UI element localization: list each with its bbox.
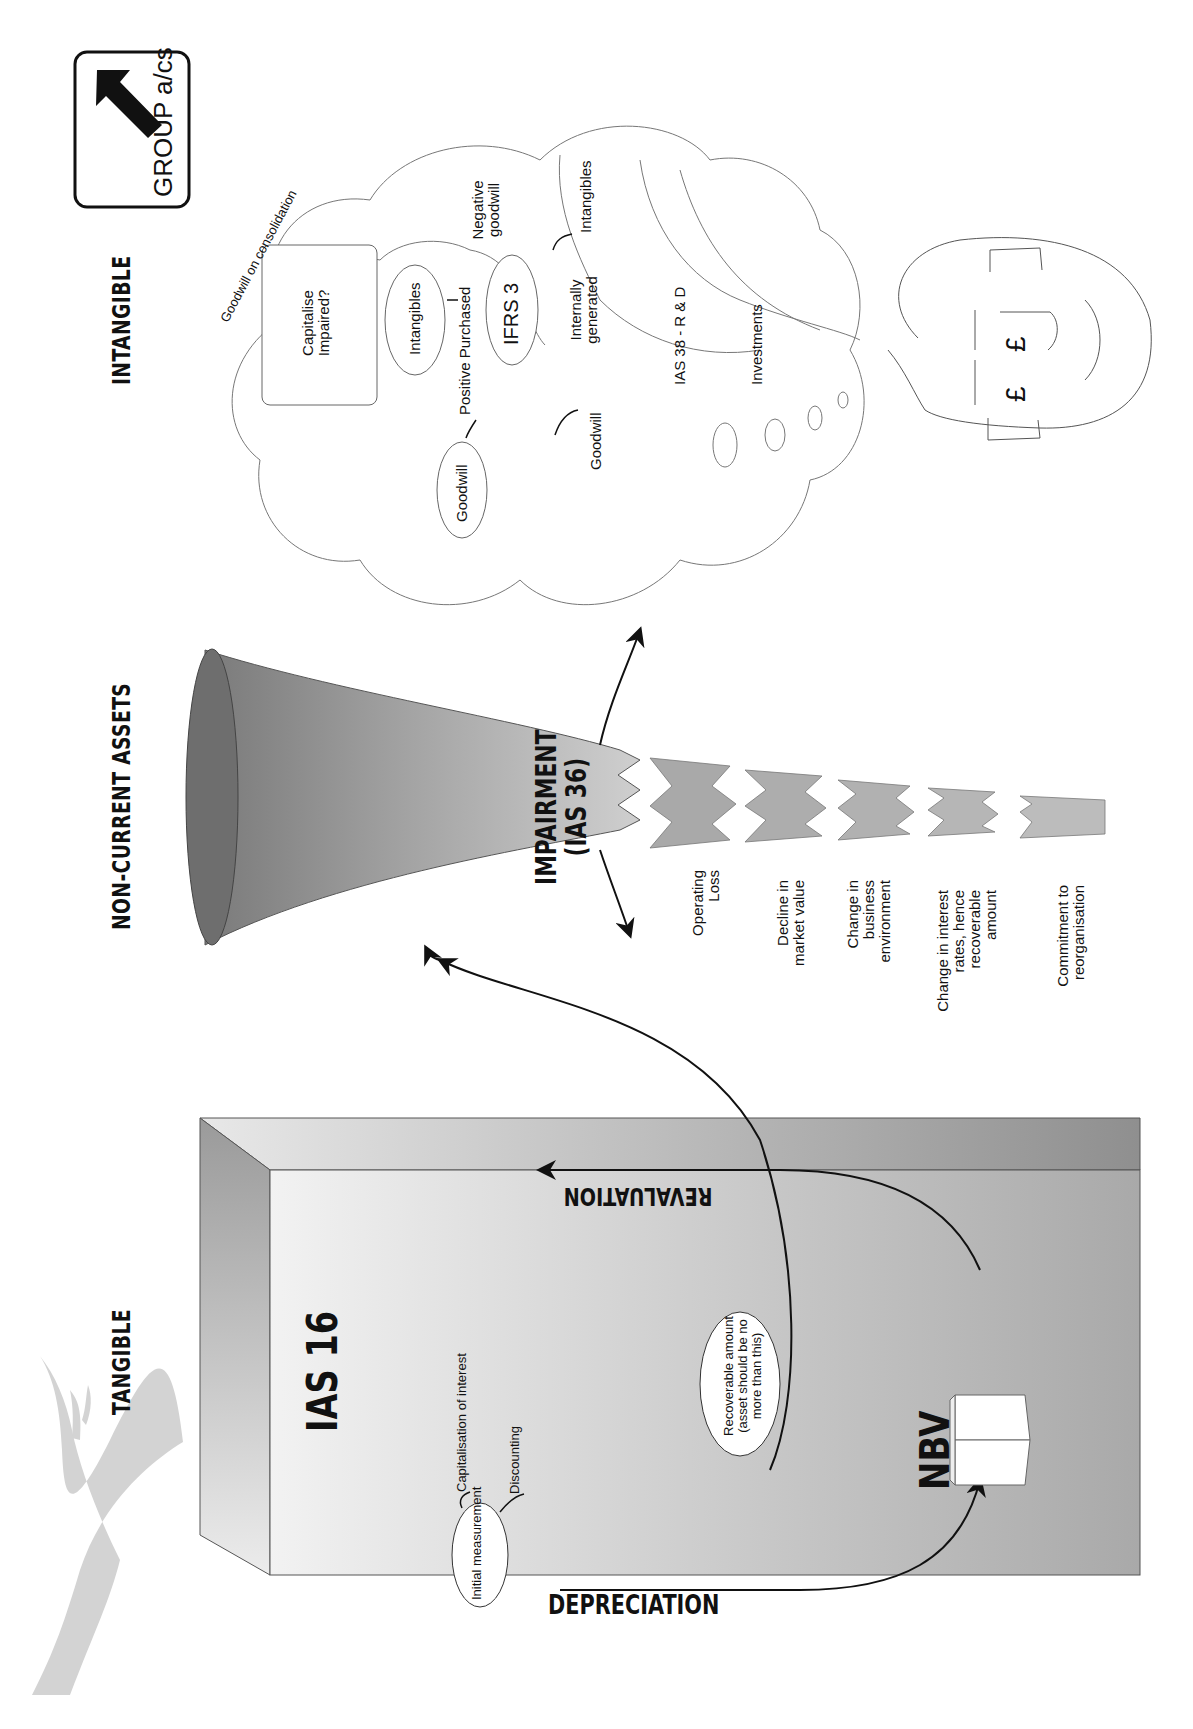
internally-generated-label: Internallygenerated: [568, 270, 600, 350]
ias38-label: IAS 38 - R & D: [672, 287, 688, 385]
book-icon: [950, 1395, 1030, 1485]
goodwill-internal-label: Goodwill: [588, 412, 604, 470]
ifrs3-label: IFRS 3: [500, 283, 523, 345]
revaluation-label: REVALUATION: [564, 1182, 713, 1210]
intangibles-purchased-label: Intangibles: [407, 282, 423, 355]
indicator-business-environment: Change inbusinessenvironment: [845, 880, 893, 1000]
negative-goodwill-label: Negativegoodwill: [470, 175, 502, 245]
nbv-label: NBV: [912, 1411, 958, 1490]
heading-non-current-assets: NON-CURRENT ASSETS: [108, 683, 136, 930]
investments-label: Investments: [749, 304, 765, 385]
positive-purchased-label: Positive Purchased: [457, 287, 473, 415]
arrow-down: [600, 850, 630, 935]
ias16-label: IAS 16: [298, 1311, 347, 1432]
indicator-interest-rates: Change in interestrates, hencerecoverabl…: [935, 890, 999, 1040]
goodwill-purchased-label: Goodwill: [454, 464, 470, 522]
intangibles-internal-label: Intangibles: [578, 160, 594, 233]
arrow-to-cloud: [600, 630, 640, 745]
indicator-reorganisation: Commitment toreorganisation: [1055, 885, 1087, 1025]
indicator-decline-market-value: Decline inmarket value: [775, 880, 807, 1000]
heading-intangible: INTANGIBLE: [108, 256, 136, 385]
capitalise-impaired-label: CapitaliseImpaired?: [300, 278, 332, 368]
pound-sign-icon: £: [1000, 336, 1032, 352]
diagram-graphics: [0, 0, 1193, 1729]
recoverable-amount-label: Recoverable amount (asset should be no m…: [722, 1306, 764, 1446]
pound-sign-icon: £: [1000, 386, 1032, 402]
depreciation-label: DEPRECIATION: [548, 1590, 719, 1620]
capitalisation-of-interest-label: Capitalisation of interest: [455, 1353, 469, 1492]
impairment-label: IMPAIRMENT (IAS 36): [532, 729, 592, 885]
indicator-operating-loss: OperatingLoss: [690, 870, 722, 980]
initial-measurement-label: Initial measurement: [470, 1505, 484, 1600]
discounting-label: Discounting: [508, 1426, 522, 1494]
badge-label[interactable]: GROUP a/cs: [148, 47, 179, 197]
heading-tangible: TANGIBLE: [108, 1309, 136, 1415]
